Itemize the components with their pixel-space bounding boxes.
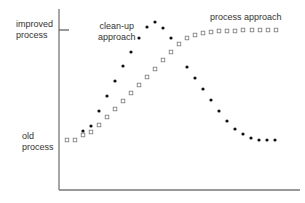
cleanup-point [257,138,260,141]
old-label-line2: process [22,142,54,153]
cleanup-point [265,138,268,141]
process-point [121,99,125,103]
cleanup-approach-label: clean-up approach [98,21,136,43]
old-process-label: old process [22,131,54,153]
process-point [217,29,221,33]
cleanup-point [233,127,236,130]
cleanup-point [97,109,100,112]
cleanup-point [249,136,252,139]
cleanup-point [193,76,196,79]
process-point [193,33,197,37]
process-point [129,91,133,95]
process-point [113,107,117,111]
process-approach-text: process approach [210,12,282,22]
cleanup-point [201,87,204,90]
cleanup-point [153,20,156,23]
cleanup-point [105,94,108,97]
process-point [161,58,165,62]
process-point [177,42,181,46]
process-point [201,31,205,35]
process-point [241,28,245,32]
cleanup-point [209,98,212,101]
improved-label-line1: improved [16,19,53,30]
process-approach-series [65,28,278,142]
cleanup-point [185,65,188,68]
cleanup-point [225,119,228,122]
process-point [81,133,85,137]
old-label-line1: old [22,131,54,142]
process-point [105,115,109,119]
cleanup-label-line2: approach [98,32,136,43]
cleanup-point [81,129,84,132]
cleanup-point [241,132,244,135]
cleanup-point [113,79,116,82]
process-point [145,75,149,79]
process-point [266,28,270,32]
cleanup-point [273,138,276,141]
process-point [185,36,189,40]
process-point [65,138,69,142]
cleanup-point [137,36,140,39]
improved-process-label: improved process [16,19,53,41]
process-point [233,29,237,33]
process-point [258,28,262,32]
cleanup-point [161,26,164,29]
process-point [209,30,213,34]
cleanup-point [169,36,172,39]
cleanup-point [217,109,220,112]
cleanup-point [145,25,148,28]
process-point [274,28,278,32]
process-approach-label: process approach [210,12,282,23]
improved-label-line2: process [16,30,53,41]
process-point [250,28,254,32]
process-point [89,130,93,134]
process-point [169,50,173,54]
cleanup-label-line1: clean-up [98,21,136,32]
process-point [97,123,101,127]
process-point [225,29,229,33]
cleanup-point [121,64,124,67]
cleanup-point [89,124,92,127]
process-point [137,83,141,87]
process-point [153,67,157,71]
process-point [73,138,77,142]
cleanup-point [129,50,132,53]
